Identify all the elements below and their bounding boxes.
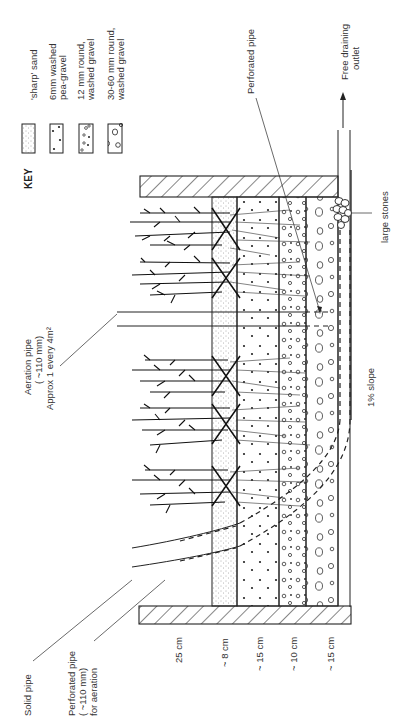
key-label-sand: 'sharp' sand bbox=[28, 49, 39, 100]
key-item-gravel-30-60mm: 30-60 mm round, washed gravel bbox=[105, 28, 126, 153]
outlet-arrow bbox=[340, 92, 346, 128]
depth-gravel-30-60mm: ~ 15 cm bbox=[325, 637, 336, 671]
key-heading: KEY bbox=[23, 168, 34, 189]
perf-aeration-label-2: ( ~110 mm) bbox=[77, 668, 88, 716]
solid-pipe-label: Solid pipe bbox=[22, 674, 33, 716]
key-item-pea-gravel: 6mm washed pea-gravel bbox=[47, 44, 68, 154]
layer-gravel-30-60mm bbox=[306, 197, 338, 606]
outlet-label-2: outlet bbox=[350, 46, 361, 70]
perf-aeration-label-1: Perforated pipe bbox=[66, 651, 77, 716]
media-layers bbox=[212, 197, 338, 606]
perf-aeration-label-3: for aeration bbox=[88, 668, 99, 716]
gravel-30-60mm-swatch bbox=[108, 124, 122, 153]
large-stones-label: large stones bbox=[379, 191, 390, 243]
gravel-12mm-swatch bbox=[79, 124, 93, 153]
bottom-wall bbox=[139, 606, 351, 624]
key-label-pea-gravel-2: pea-gravel bbox=[57, 55, 68, 100]
key-label-gravel-30-60mm-2: washed gravel bbox=[115, 39, 126, 101]
key-label-gravel-12mm-2: washed gravel bbox=[85, 39, 96, 101]
depth-freeboard: 25 cm bbox=[173, 637, 184, 663]
depth-gravel-12mm: ~ 10 cm bbox=[288, 637, 299, 671]
layer-gravel-12mm bbox=[279, 197, 306, 606]
key-legend: KEY 'sharp' sand 6mm washed pea-gravel 1… bbox=[22, 28, 126, 189]
layer-sand bbox=[212, 197, 237, 606]
depth-sand: ~ 8 cm bbox=[219, 638, 230, 667]
sand-swatch bbox=[22, 124, 35, 153]
depth-pea-gravel: ~ 15 cm bbox=[254, 637, 265, 671]
reed-bed-diagram: KEY 'sharp' sand 6mm washed pea-gravel 1… bbox=[0, 0, 397, 718]
aeration-label-3: Approx 1 every 4m² bbox=[44, 327, 55, 410]
key-item-gravel-12mm: 12 mm round, washed gravel bbox=[75, 39, 96, 153]
collection-drain bbox=[340, 230, 350, 420]
key-item-sand: 'sharp' sand bbox=[22, 49, 39, 153]
aeration-label-2: ( ~110 mm) bbox=[33, 336, 44, 384]
aeration-leader bbox=[60, 314, 117, 366]
aeration-label-1: Aeration pipe bbox=[22, 339, 33, 395]
top-wall bbox=[140, 176, 338, 197]
pea-gravel-swatch bbox=[50, 124, 63, 153]
slope-label: 1% slope bbox=[365, 368, 376, 407]
perforated-pipe-label: Perforated pipe bbox=[245, 29, 256, 94]
depth-labels: 25 cm ~ 8 cm ~ 15 cm ~ 10 cm ~ 15 cm bbox=[173, 637, 336, 671]
outlet-label-1: Free draining bbox=[339, 24, 350, 80]
aeration-pipe-label: Aeration pipe ( ~110 mm) Approx 1 every … bbox=[22, 327, 55, 410]
solid-pipe-leader bbox=[33, 580, 132, 661]
